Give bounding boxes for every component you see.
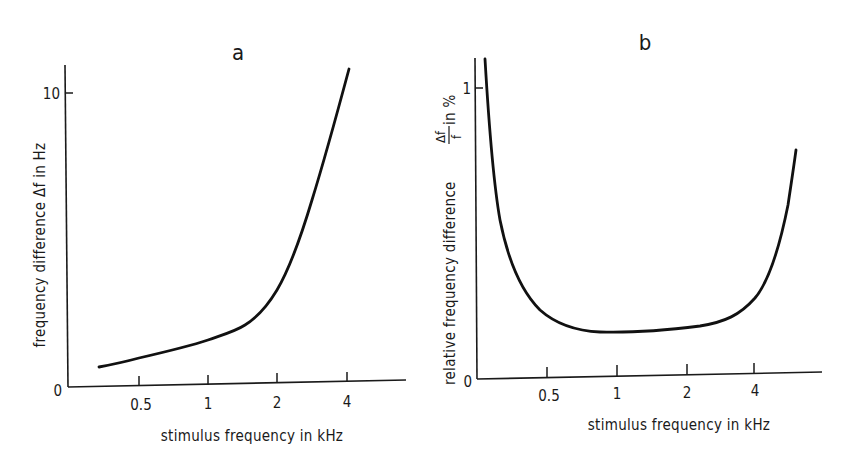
panel-b-xtick-label: 2: [683, 384, 692, 402]
panel-a-curve: [99, 69, 349, 367]
panel-a-ytick-label-10: 10: [43, 85, 60, 103]
panel-a-ytick-label-0: 0: [53, 382, 62, 400]
panel-a-x-axis-title: stimulus frequency in kHz: [161, 427, 343, 445]
panel-b-y-axis-unit: in %: [441, 94, 459, 125]
panel-a-title: a: [232, 40, 244, 65]
panel-b: b 1 0 0.5 1 2 4 stimulus frequency in kH…: [433, 30, 822, 434]
panel-b-y-axis-title-main: relative frequency difference: [441, 181, 459, 385]
panel-b-title: b: [639, 30, 652, 55]
panel-b-y-axis-fraction-numerator: Δf: [433, 130, 448, 143]
panel-b-ytick-label-0: 0: [463, 373, 472, 391]
panel-a-xtick-label: 1: [204, 395, 213, 413]
panel-b-curve: [485, 59, 796, 332]
panel-a: a 10 0 0.5 1 2 4 stimulus frequency in k…: [31, 40, 406, 445]
panel-a-xtick-label: 4: [343, 393, 352, 411]
figure: a 10 0 0.5 1 2 4 stimulus frequency in k…: [0, 0, 850, 467]
panel-b-x-axis-title: stimulus frequency in kHz: [588, 416, 770, 434]
panel-a-y-axis-title: frequency difference Δf in Hz: [31, 143, 49, 348]
panel-a-y-axis: [65, 65, 68, 387]
panel-b-xtick-label: 1: [613, 385, 622, 403]
panel-a-x-axis: [68, 380, 406, 387]
panel-a-xtick-label: 0.5: [130, 396, 151, 414]
panel-b-y-axis-title: relative frequency difference Δf f in %: [433, 94, 464, 385]
panel-b-y-axis: [475, 58, 477, 379]
panel-b-x-axis: [477, 372, 822, 379]
panel-b-xtick-label: 4: [751, 382, 760, 400]
panel-b-ytick-label-1: 1: [462, 80, 471, 98]
panel-b-y-axis-fraction-denominator: f: [449, 134, 464, 139]
panel-a-xtick-label: 2: [273, 394, 282, 412]
panel-b-xtick-label: 0.5: [538, 387, 559, 405]
